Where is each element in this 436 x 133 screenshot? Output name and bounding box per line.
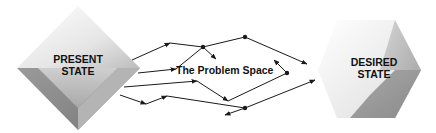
- arrow-path: [132, 43, 170, 60]
- arrow-path: [228, 73, 287, 101]
- present-state-label: PRESENT STATE: [38, 54, 118, 77]
- arrow-path: [124, 81, 197, 87]
- arrow-path: [245, 37, 307, 64]
- arrow-path: [245, 80, 315, 108]
- present-state-line2: STATE: [38, 66, 118, 78]
- node-dot: [285, 71, 289, 75]
- node-dot: [201, 45, 205, 49]
- arrow-path: [120, 95, 146, 104]
- desired-state-line1: DESIRED: [334, 57, 414, 69]
- arrow-path: [138, 69, 176, 73]
- arrow-path: [170, 43, 203, 47]
- problem-space-label: The Problem Space: [176, 65, 273, 77]
- node-dot: [243, 35, 247, 39]
- desired-state-label: DESIRED STATE: [334, 57, 414, 80]
- arrow-path: [197, 81, 228, 101]
- present-state-line1: PRESENT: [38, 54, 118, 66]
- arrow-path: [146, 96, 167, 104]
- arrow-path: [225, 108, 245, 115]
- arrow-path: [167, 96, 245, 108]
- desired-state-line2: STATE: [334, 69, 414, 81]
- node-dot: [243, 106, 247, 110]
- arrow-path: [203, 37, 245, 47]
- arrow-path: [274, 60, 287, 73]
- arrow-path: [203, 47, 216, 59]
